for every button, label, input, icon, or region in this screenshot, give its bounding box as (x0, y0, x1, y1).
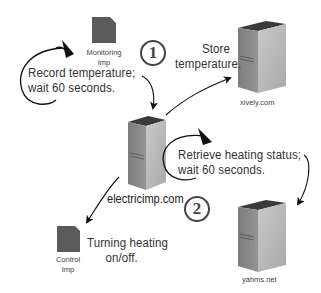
record-temperature-annotation: Record temperature; wait 60 seconds. (28, 66, 135, 96)
yahms-label: yahms.net (242, 275, 277, 285)
electricimp-server-icon (128, 116, 166, 190)
retrieve-line1: Retrieve heating status; (178, 148, 301, 163)
step-1-badge: 1 (140, 40, 166, 66)
xively-server-icon (238, 21, 286, 93)
loop-arrowhead-icon (198, 128, 212, 145)
arrow-monitoring-to-electricimp-icon (142, 76, 154, 108)
monitoring-imp-card-icon (92, 17, 116, 43)
yahms-server-icon (238, 200, 286, 272)
store-temperature-annotation: Store temperature. (175, 42, 241, 72)
step-2-badge: 2 (184, 196, 210, 222)
store-line1: Store (175, 42, 241, 57)
retrieve-heating-annotation: Retrieve heating status; wait 60 seconds… (178, 148, 301, 178)
turning-line2: on/off. (87, 251, 168, 266)
iot-heating-diagram: Monitoring Imp Record temperature; wait … (0, 0, 321, 293)
record-line1: Record temperature; (28, 66, 135, 81)
control-imp-label-line1: Control (52, 255, 84, 265)
monitoring-imp-label-line1: Monitoring (86, 48, 122, 58)
xively-label: xively.com (240, 98, 274, 108)
monitoring-imp-label: Monitoring Imp (86, 48, 122, 68)
control-imp-label-line2: Imp (52, 265, 84, 275)
record-line2: wait 60 seconds. (28, 81, 135, 96)
turning-heating-annotation: Turning heating on/off. (87, 236, 168, 266)
control-imp-label: Control Imp (52, 255, 84, 275)
control-imp-card-icon (57, 226, 80, 252)
electricimp-label: electricimp.com (107, 192, 184, 206)
retrieve-line2: wait 60 seconds. (178, 163, 301, 178)
turning-line1: Turning heating (87, 236, 168, 251)
arrow-electricimp-to-xively-icon (166, 78, 230, 115)
store-line2: temperature. (175, 57, 241, 72)
